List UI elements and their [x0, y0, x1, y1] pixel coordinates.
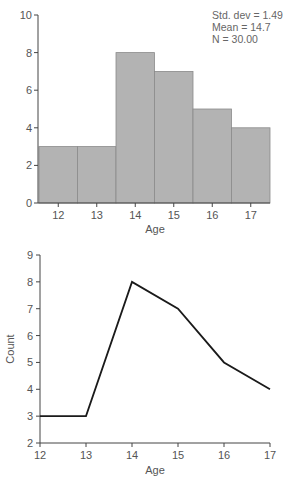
histogram-y-ticks: 0246810	[20, 9, 38, 209]
histogram-x-tick-label: 16	[206, 209, 218, 221]
stats-std-dev: Std. dev = 1.49	[212, 9, 283, 21]
histogram-bars	[39, 53, 270, 203]
histogram-chart: 0246810 121314151617 Age Std. dev = 1.49…	[20, 9, 283, 235]
histogram-y-tick-label: 0	[26, 197, 32, 209]
line-chart-x-tick-label: 17	[264, 449, 276, 461]
stats-n: N = 30.00	[212, 33, 258, 45]
line-chart-x-ticks: 121314151617	[34, 443, 276, 461]
histogram-bar-12	[39, 147, 78, 203]
chart-figure: 0246810 121314151617 Age Std. dev = 1.49…	[0, 0, 287, 485]
histogram-x-tick-label: 14	[129, 209, 141, 221]
histogram-x-ticks: 121314151617	[52, 203, 257, 221]
histogram-bar-16	[193, 109, 232, 203]
line-chart-y-tick-label: 2	[27, 437, 33, 449]
line-chart-x-tick-label: 14	[126, 449, 138, 461]
line-chart: 23456789 121314151617 Age Count	[4, 249, 276, 476]
line-chart-y-tick-label: 4	[27, 383, 33, 395]
line-chart-y-tick-label: 3	[27, 410, 33, 422]
line-chart-x-tick-label: 13	[80, 449, 92, 461]
histogram-y-tick-label: 2	[26, 159, 32, 171]
line-chart-y-ticks: 23456789	[27, 249, 40, 449]
histogram-x-tick-label: 15	[168, 209, 180, 221]
line-chart-y-tick-label: 9	[27, 249, 33, 261]
line-chart-x-tick-label: 16	[218, 449, 230, 461]
histogram-stats-annotation: Std. dev = 1.49 Mean = 14.7 N = 30.00	[212, 9, 283, 45]
stats-mean: Mean = 14.7	[212, 21, 271, 33]
line-chart-x-tick-label: 15	[172, 449, 184, 461]
histogram-x-tick-label: 13	[91, 209, 103, 221]
line-chart-y-tick-label: 6	[27, 330, 33, 342]
histogram-y-tick-label: 4	[26, 122, 32, 134]
histogram-x-axis-label: Age	[145, 223, 165, 235]
line-chart-y-tick-label: 5	[27, 356, 33, 368]
line-chart-x-axis-label: Age	[145, 464, 165, 476]
histogram-bar-13	[78, 147, 117, 203]
histogram-bar-14	[116, 53, 155, 203]
histogram-y-tick-label: 8	[26, 47, 32, 59]
histogram-y-tick-label: 10	[20, 9, 32, 21]
line-chart-x-tick-label: 12	[34, 449, 46, 461]
histogram-y-tick-label: 6	[26, 84, 32, 96]
histogram-x-tick-label: 17	[245, 209, 257, 221]
histogram-bar-15	[155, 71, 194, 203]
count-series-line	[40, 282, 270, 416]
histogram-x-tick-label: 12	[52, 209, 64, 221]
histogram-bar-17	[232, 128, 271, 203]
line-chart-y-axis-label: Count	[4, 334, 16, 363]
line-chart-y-tick-label: 8	[27, 276, 33, 288]
line-chart-y-tick-label: 7	[27, 303, 33, 315]
